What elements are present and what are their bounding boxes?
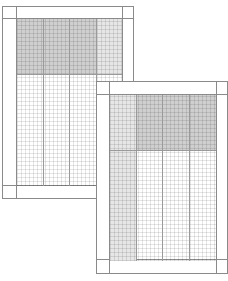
- back-sheet-header-band: [3, 7, 133, 19]
- front-sheet-column-line: [136, 95, 137, 261]
- front-sheet-footer-band: [97, 259, 227, 273]
- front-sheet: [96, 81, 228, 274]
- front-sheet-column-line: [162, 95, 163, 261]
- front-sheet-right-margin-line: [216, 82, 217, 273]
- front-sheet-header-band: [97, 82, 227, 95]
- front-sheet-header-divider: [110, 150, 216, 151]
- front-sheet-column-line: [189, 95, 190, 261]
- front-sheet-grid: [110, 95, 216, 261]
- back-sheet-column-line: [69, 19, 70, 186]
- back-sheet-column-line: [43, 19, 44, 186]
